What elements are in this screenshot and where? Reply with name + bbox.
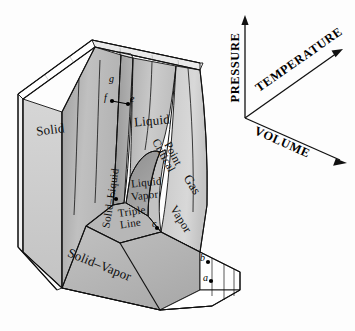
axis-label-pressure: PRESSURE	[228, 32, 243, 102]
point-label-a: a	[203, 273, 208, 283]
point-label-g: g	[109, 74, 114, 84]
point-label-c: c	[152, 219, 156, 229]
point-marker-b	[206, 260, 210, 264]
point-label-e: e	[130, 94, 134, 104]
point-label-f: f	[104, 93, 107, 103]
point-label-d: d	[110, 189, 115, 199]
point-marker-a	[209, 279, 213, 283]
point-label-b: b	[200, 253, 205, 263]
pvt-surface-figure: Solid Solid–Liquid Liquid Liquid Vapor T…	[0, 0, 355, 331]
